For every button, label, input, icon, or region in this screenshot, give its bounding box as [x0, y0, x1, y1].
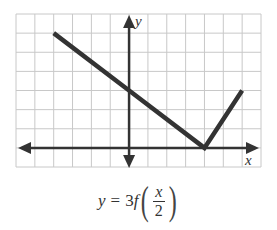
caption-lhs: y	[98, 191, 106, 211]
equation-caption: y = 3 f ( x 2 )	[0, 176, 277, 226]
y-axis-label: y	[133, 13, 142, 29]
fraction-denominator: 2	[155, 202, 163, 220]
caption-equals: =	[111, 191, 121, 211]
caption-coef: 3	[125, 191, 134, 211]
caption-func: f	[134, 191, 139, 211]
fraction-numerator: x	[155, 183, 162, 201]
x-axis-label: x	[244, 152, 252, 168]
right-paren: )	[168, 181, 176, 221]
grid-lines	[16, 14, 261, 167]
fraction: x 2	[153, 183, 165, 220]
graph: x y	[0, 0, 277, 180]
left-paren: (	[141, 181, 149, 221]
